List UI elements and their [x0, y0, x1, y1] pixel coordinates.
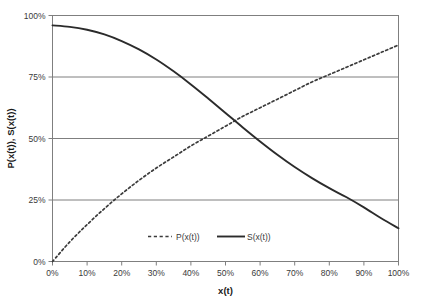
legend-label-s: S(x(t))	[247, 232, 271, 242]
x-tick-label: 70%	[286, 268, 303, 278]
x-tick-label: 80%	[321, 268, 338, 278]
x-tick-label: 30%	[148, 268, 165, 278]
line-chart: 0%25%50%75%100% 0%10%20%30%40%50%60%70%8…	[0, 0, 427, 306]
legend-label-p: P(x(t))	[176, 232, 200, 242]
x-tick-label: 90%	[355, 268, 372, 278]
chart-background	[0, 0, 427, 306]
y-tick-label: 25%	[28, 195, 45, 205]
y-tick-label: 100%	[24, 11, 46, 21]
x-tick-label: 100%	[388, 268, 410, 278]
x-tick-label: 0%	[46, 268, 59, 278]
y-tick-label: 50%	[28, 134, 45, 144]
y-tick-label: 0%	[33, 257, 46, 267]
x-tick-label: 10%	[79, 268, 96, 278]
x-tick-label: 20%	[113, 268, 130, 278]
y-axis-title: P(x(t)), S(x(t))	[5, 108, 16, 168]
x-axis-title: x(t)	[218, 285, 233, 296]
y-tick-label: 75%	[28, 72, 45, 82]
x-tick-label: 60%	[252, 268, 269, 278]
x-tick-label: 40%	[182, 268, 199, 278]
chart-container: 0%25%50%75%100% 0%10%20%30%40%50%60%70%8…	[0, 0, 427, 306]
x-tick-label: 50%	[217, 268, 234, 278]
